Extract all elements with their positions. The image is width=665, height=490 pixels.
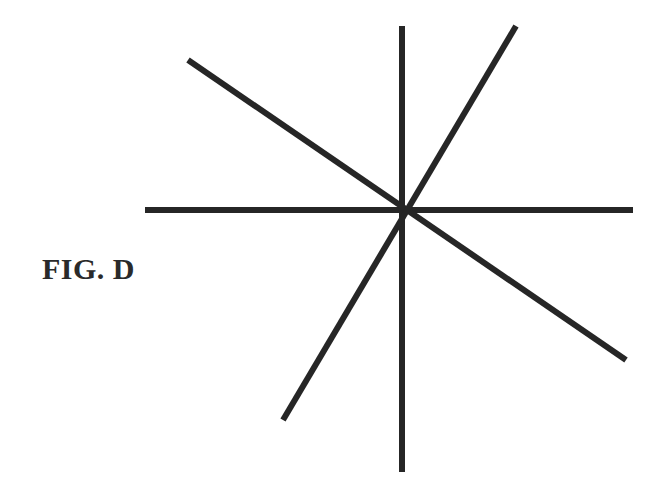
figure-label: FIG. D <box>42 252 135 286</box>
radiating-lines <box>145 26 633 472</box>
figure-diagram <box>0 0 665 490</box>
